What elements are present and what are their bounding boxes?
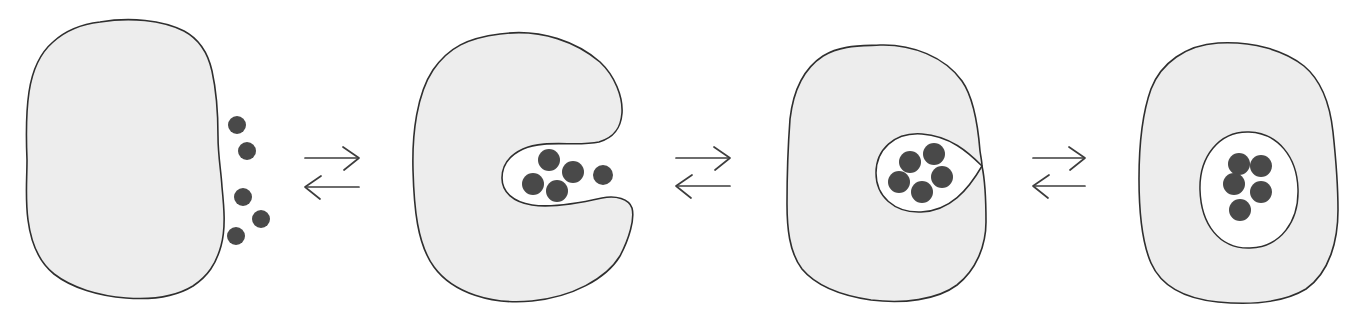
guest-dot bbox=[234, 188, 252, 206]
guest-dots-stage-2 bbox=[522, 149, 613, 202]
guest-dot bbox=[911, 181, 933, 203]
guest-dot bbox=[923, 143, 945, 165]
stage-1-host bbox=[26, 20, 224, 299]
guest-dot bbox=[931, 166, 953, 188]
equilibrium-arrow-pair-1 bbox=[305, 147, 359, 199]
host-body-outline-1 bbox=[26, 20, 224, 299]
guest-dots-stage-1 bbox=[227, 116, 270, 245]
guest-dot bbox=[562, 161, 584, 183]
stage-3-host bbox=[787, 45, 986, 302]
guest-dot bbox=[1228, 153, 1250, 175]
guest-dot bbox=[538, 149, 560, 171]
equilibrium-arrow-pair-2 bbox=[676, 147, 730, 198]
diagram-canvas bbox=[0, 0, 1358, 325]
guest-dot bbox=[888, 171, 910, 193]
guest-dot bbox=[252, 210, 270, 228]
guest-dot bbox=[899, 151, 921, 173]
guest-dot bbox=[593, 165, 613, 185]
guest-dot bbox=[228, 116, 246, 134]
guest-dot bbox=[1250, 155, 1272, 177]
guest-dot bbox=[522, 173, 544, 195]
guest-dot bbox=[227, 227, 245, 245]
guest-dot bbox=[1223, 173, 1245, 195]
equilibrium-arrow-pair-3 bbox=[1033, 147, 1085, 198]
closed-cavity-outline bbox=[1200, 132, 1298, 248]
encapsulation-equilibrium-diagram bbox=[0, 0, 1358, 325]
guest-dot bbox=[1250, 181, 1272, 203]
guest-dot bbox=[546, 180, 568, 202]
guest-dot bbox=[1229, 199, 1251, 221]
guest-dot bbox=[238, 142, 256, 160]
